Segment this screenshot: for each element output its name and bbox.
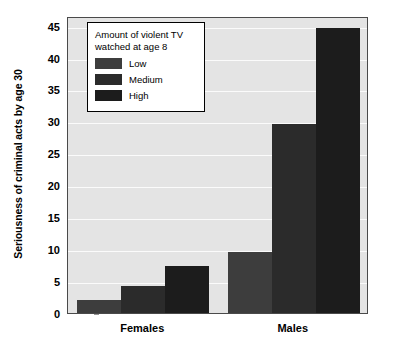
y-tick-label: 10 xyxy=(32,244,60,256)
bar-females-high xyxy=(165,266,209,313)
legend-label: Low xyxy=(129,58,146,69)
y-tick-label: 45 xyxy=(32,21,60,33)
y-tick-label: 40 xyxy=(32,53,60,65)
legend-items: LowMediumHigh xyxy=(95,56,197,103)
legend-swatch-low xyxy=(95,58,122,69)
y-axis-tick-labels: 051015202530354045 xyxy=(32,0,60,348)
x-tick-label-males: Males xyxy=(277,322,308,334)
y-tick-label: 30 xyxy=(32,116,60,128)
y-tick-label: 5 xyxy=(32,276,60,288)
y-tick-label: 0 xyxy=(32,308,60,320)
bar-males-medium xyxy=(272,124,316,313)
bar-chart-figure: Seriousness of criminal acts by age 30 0… xyxy=(0,0,396,348)
legend-label: High xyxy=(129,90,149,101)
legend-item: Low xyxy=(95,56,197,71)
legend: Amount of violent TV watched at age 8 Lo… xyxy=(87,22,205,112)
bar-females-low xyxy=(77,300,121,313)
bar-males-low xyxy=(228,252,272,313)
y-axis-title: Seriousness of criminal acts by age 30 xyxy=(12,14,24,314)
legend-item: Medium xyxy=(95,72,197,87)
legend-swatch-high xyxy=(95,90,122,101)
legend-item: High xyxy=(95,88,197,103)
x-tick-label-females: Females xyxy=(120,322,164,334)
legend-label: Medium xyxy=(129,74,163,85)
bar-females-medium xyxy=(121,286,165,313)
y-tick-label: 25 xyxy=(32,148,60,160)
y-tick-label: 15 xyxy=(32,212,60,224)
bar-males-high xyxy=(316,28,360,314)
y-tick-label: 35 xyxy=(32,84,60,96)
legend-title: Amount of violent TV watched at age 8 xyxy=(95,29,197,52)
y-tick-label: 20 xyxy=(32,180,60,192)
legend-swatch-medium xyxy=(95,74,122,85)
plot-area: Amount of violent TV watched at age 8 Lo… xyxy=(67,17,368,314)
